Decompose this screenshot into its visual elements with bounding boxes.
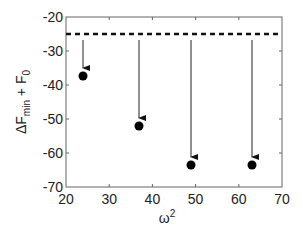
x-tick-label: 20 [58, 191, 74, 207]
data-point [187, 161, 196, 170]
x-tick-label: 40 [145, 191, 161, 207]
data-point [135, 122, 144, 131]
y-tick-labels: -20 -30 -40 -50 -60 -70 [43, 9, 63, 195]
data-point [79, 72, 88, 81]
data-point [248, 161, 257, 170]
x-tick-label: 60 [231, 191, 247, 207]
y-tick-label: -20 [43, 9, 63, 25]
chart: -20 -30 -40 -50 -60 -70 20 30 40 50 60 7… [0, 0, 303, 232]
y-tick-label: -50 [43, 111, 63, 127]
arrows [83, 40, 252, 157]
x-tick-label: 50 [188, 191, 204, 207]
data-points [79, 72, 257, 170]
x-axis-label: ω2 [159, 208, 176, 226]
y-tick-label: -60 [43, 145, 63, 161]
y-axis-label: ΔFmin + F0 [13, 70, 32, 135]
y-tick-label: -40 [43, 77, 63, 93]
x-tick-label: 70 [274, 191, 290, 207]
y-tick-label: -30 [43, 43, 63, 59]
x-tick-label: 30 [101, 191, 117, 207]
x-tick-labels: 20 30 40 50 60 70 [58, 191, 290, 207]
